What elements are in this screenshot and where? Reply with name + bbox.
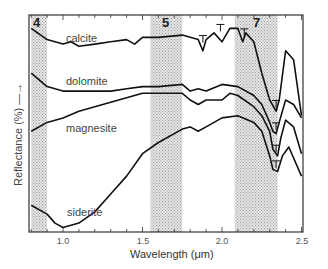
y-axis-label: Reflectance (%) —→	[12, 83, 24, 186]
band-5-shading	[150, 15, 182, 232]
band-label-5: 5	[162, 15, 169, 30]
x-tick-1-5: 1.5	[137, 236, 150, 246]
band-label-7: 7	[253, 15, 260, 30]
absorption-marker	[216, 24, 224, 31]
reflectance-chart	[0, 0, 328, 269]
band-label-4: 4	[33, 15, 40, 30]
series-label-magnesite: magnesite	[66, 122, 117, 134]
series-label-calcite: calcite	[66, 32, 97, 44]
band-7-shading	[235, 15, 278, 232]
series-label-siderite: siderite	[67, 206, 102, 218]
x-axis-label: Wavelength (μm)	[130, 248, 214, 260]
x-tick-2-5: 2.5	[296, 236, 309, 246]
x-tick-1-0: 1.0	[57, 236, 70, 246]
series-label-dolomite: dolomite	[66, 75, 108, 87]
x-tick-2-0: 2.0	[216, 236, 229, 246]
